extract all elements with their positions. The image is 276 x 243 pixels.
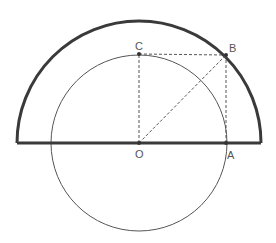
label-b: B bbox=[229, 42, 236, 54]
geometry-diagram: O A B C bbox=[0, 0, 276, 243]
label-o: O bbox=[135, 148, 144, 160]
label-c: C bbox=[135, 40, 143, 52]
point-c bbox=[137, 52, 141, 56]
point-b bbox=[224, 53, 228, 57]
point-o bbox=[137, 141, 141, 145]
label-a: A bbox=[227, 149, 235, 161]
point-a bbox=[224, 141, 228, 145]
segment-cb bbox=[139, 54, 226, 55]
segment-ob bbox=[139, 55, 226, 143]
